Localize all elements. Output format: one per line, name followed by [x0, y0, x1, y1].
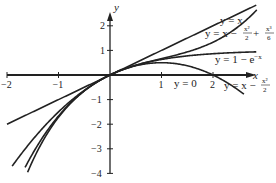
- y-tick-label: 2: [100, 20, 105, 31]
- y-tick-label: 1: [100, 45, 105, 56]
- x-tick-label: 2: [210, 79, 215, 90]
- frac-den-2: 2: [245, 34, 249, 42]
- chart-container: −2−11221−1−2−3−4 y x y = x y = x − x² 2 …: [0, 0, 276, 183]
- x-tick-label: −1: [53, 79, 64, 90]
- y-axis-label: y: [113, 1, 119, 13]
- annotations: y x y = x y = x − x² 2 + x³ 6 y = 1 − e−…: [113, 1, 274, 94]
- frac-den-6: 6: [267, 34, 271, 42]
- y-tick-label: −1: [91, 94, 102, 105]
- y-tick-label: −3: [91, 143, 102, 154]
- frac-x3-num: x³: [266, 25, 272, 33]
- x-tick-label: 1: [159, 79, 164, 90]
- y-axis-arrow-icon: [107, 12, 113, 21]
- label-y-eq-0: y = 0: [174, 77, 197, 89]
- frac-den-2b: 2: [263, 86, 267, 94]
- label-taylor2: y = x −: [224, 79, 256, 91]
- x-tick-label: −2: [1, 79, 12, 90]
- y-tick-label: −4: [91, 168, 102, 179]
- frac-x2-num-2: x²: [262, 77, 268, 85]
- label-taylor3: y = x −: [205, 27, 237, 39]
- label-exp: y = 1 − e−x: [215, 53, 262, 65]
- plot-area: −2−11221−1−2−3−4 y x y = x y = x − x² 2 …: [0, 0, 276, 183]
- plus-sign: +: [253, 27, 259, 39]
- label-y-eq-x: y = x: [220, 14, 243, 26]
- frac-x2-num: x²: [244, 25, 250, 33]
- y-tick-label: −2: [91, 119, 102, 130]
- curve-2: [28, 52, 257, 172]
